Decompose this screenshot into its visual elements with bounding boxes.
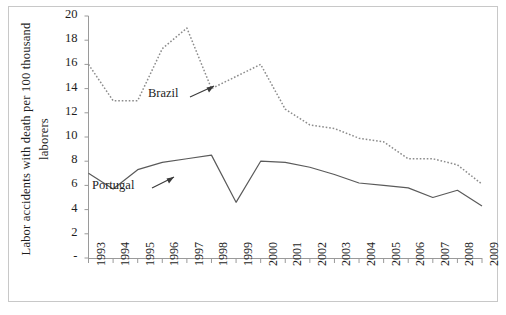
brazil-arrow-head: [207, 86, 215, 93]
x-axis-tick-label: 2009: [487, 242, 502, 266]
y-axis-tick-label: 8: [56, 152, 78, 167]
series-line-brazil: [89, 28, 483, 184]
x-axis-tick-label: 2000: [266, 242, 281, 266]
annotation-arrows: [152, 86, 214, 188]
series-label-brazil: Brazil: [148, 86, 179, 101]
y-axis-tick-label: 18: [56, 31, 78, 46]
y-axis-tick-label: 6: [56, 176, 78, 191]
y-axis-tick-label: 2: [56, 225, 78, 240]
x-axis-tick-label: 1997: [192, 242, 207, 266]
y-axis-tick-label: -: [56, 249, 78, 264]
portugal-arrow-head: [167, 177, 175, 184]
x-axis-tick-label: 1999: [241, 242, 256, 266]
y-axis-ticks: [85, 16, 89, 258]
y-axis-tick-label: 20: [56, 7, 78, 22]
x-axis-tick-label: 1995: [143, 242, 158, 266]
x-axis-tick-label: 1996: [167, 242, 182, 266]
x-axis-tick-label: 2003: [339, 242, 354, 266]
x-axis-tick-label: 2001: [290, 242, 305, 266]
y-axis-tick-label: 12: [56, 104, 78, 119]
x-axis-tick-label: 2006: [413, 242, 428, 266]
series-label-portugal: Portugal: [92, 178, 134, 193]
series-line-portugal: [89, 155, 483, 206]
x-axis-tick-label: 2007: [438, 242, 453, 266]
y-axis-tick-label: 14: [56, 80, 78, 95]
x-axis-tick-label: 2002: [315, 242, 330, 266]
chart-figure: Labor accidents with death per 100 thous…: [0, 0, 506, 315]
y-axis-tick-label: 10: [56, 128, 78, 143]
x-axis-tick-label: 1993: [94, 242, 109, 266]
x-axis-tick-label: 1994: [118, 242, 133, 266]
x-axis-tick-label: 2008: [462, 242, 477, 266]
data-series-group: [89, 28, 483, 206]
x-axis-tick-label: 1998: [216, 242, 231, 266]
x-axis-tick-label: 2005: [389, 242, 404, 266]
axes: [85, 16, 483, 263]
y-axis-tick-label: 16: [56, 55, 78, 70]
x-axis-tick-label: 2004: [364, 242, 379, 266]
y-axis-tick-label: 4: [56, 201, 78, 216]
